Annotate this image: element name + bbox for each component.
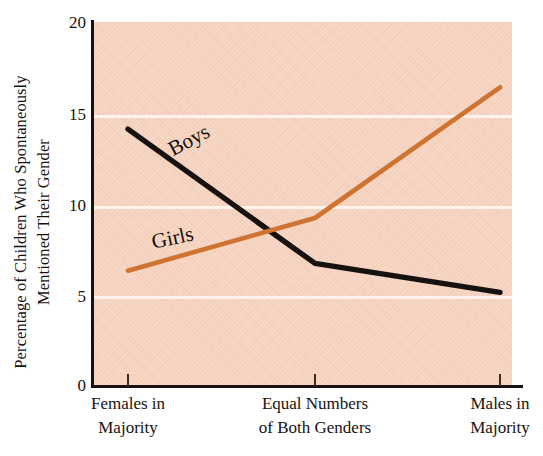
x-category-line-2: Majority: [33, 416, 223, 440]
line-chart-figure: Percentage of Children Who Spontaneously…: [0, 0, 543, 456]
x-category-line-2: Majority: [405, 416, 543, 440]
plot-area: [93, 22, 512, 385]
x-axis-line: [91, 385, 523, 388]
x-category-line-2: of Both Genders: [220, 416, 410, 440]
y-tick-label-15: 15: [52, 106, 86, 123]
y-tick-label-20: 20: [52, 14, 86, 31]
y-tick-label-10: 10: [52, 197, 86, 214]
x-category-label-equal-numbers: Equal Numbers of Both Genders: [220, 392, 410, 440]
y-axis-title-line-1: Percentage of Children Who Spontaneously: [9, 75, 32, 368]
gridline-5: [93, 296, 512, 299]
x-category-line-1: Equal Numbers: [220, 392, 410, 416]
y-axis-tick-labels: 20 15 10 5 0: [52, 0, 86, 456]
x-tick-mark-equal-numbers: [314, 374, 316, 386]
x-tick-mark-females-majority: [127, 374, 129, 386]
y-tick-label-5: 5: [52, 288, 86, 305]
x-category-label-males-majority: Males in Majority: [405, 392, 543, 440]
gridline-15: [93, 115, 512, 118]
y-axis-line: [91, 20, 94, 387]
x-tick-mark-males-majority: [499, 374, 501, 386]
x-category-line-1: Males in: [405, 392, 543, 416]
x-category-label-females-majority: Females in Majority: [33, 392, 223, 440]
gridline-10: [93, 206, 512, 209]
x-category-line-1: Females in: [33, 392, 223, 416]
